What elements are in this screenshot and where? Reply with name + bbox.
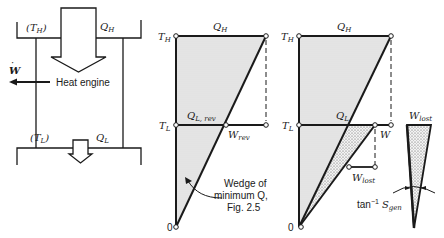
point-qh-end: [389, 34, 394, 39]
origin-label: 0: [167, 222, 173, 233]
annotation-line-3: Fig. 2.5: [227, 202, 261, 213]
tl-label: TL: [159, 120, 171, 133]
qh-label: QH: [213, 21, 228, 34]
point-origin: [174, 225, 179, 230]
point-origin: [299, 225, 304, 230]
heat-in-label: QH: [100, 21, 115, 34]
point-th: [174, 34, 179, 39]
point-right: [264, 123, 269, 128]
point-th: [297, 34, 302, 39]
th-label: TH: [281, 31, 295, 44]
cold-reservoir-label: (TL): [30, 132, 49, 145]
point-tl: [297, 123, 302, 128]
heat-in-arrow: [51, 8, 106, 72]
point-right: [389, 123, 394, 128]
annotation-line-1: Wedge of: [224, 178, 267, 189]
annotation-line-2: minimum Q,: [214, 190, 268, 201]
point-wlost-right: [373, 165, 378, 170]
point-tl: [174, 123, 179, 128]
heat-engine-label: Heat engine: [56, 77, 110, 88]
point-w: [373, 123, 378, 128]
th-label: TH: [158, 31, 172, 44]
thermodynamics-figure: (TH) QH W · Heat engine (TL) QL TH QH TL…: [0, 0, 444, 238]
angle-label: tan−1Sgen: [357, 198, 402, 212]
hot-reservoir-label: (TH): [26, 22, 47, 35]
work-arrow-head: [9, 79, 17, 86]
wedge-wlost-label: Wlost: [409, 110, 432, 123]
origin-label: 0: [288, 222, 294, 233]
wlost-label: Wlost: [352, 172, 375, 185]
point-qh-end: [264, 34, 269, 39]
point-wrev: [224, 123, 229, 128]
wrev-label: Wrev: [228, 129, 250, 142]
qh-label: QH: [337, 21, 352, 34]
heat-out-label: QL: [96, 132, 109, 145]
lost-work-wedge: [393, 125, 435, 228]
point-wlost-left: [347, 165, 352, 170]
w-label: W: [380, 129, 391, 140]
tl-label: TL: [282, 120, 294, 133]
work-rate-dot: ·: [11, 57, 14, 68]
heat-out-arrow: [69, 140, 92, 163]
